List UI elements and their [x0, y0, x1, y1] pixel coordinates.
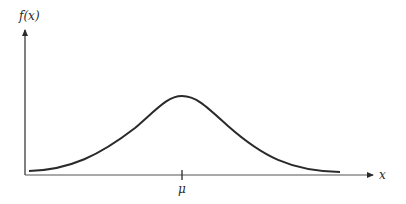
- mean-label: μ: [178, 182, 186, 196]
- density-curve: [29, 96, 340, 172]
- normal-distribution-chart: f(x) x μ: [0, 0, 406, 204]
- x-axis-label: x: [379, 168, 386, 182]
- y-axis-label: f(x): [18, 9, 40, 23]
